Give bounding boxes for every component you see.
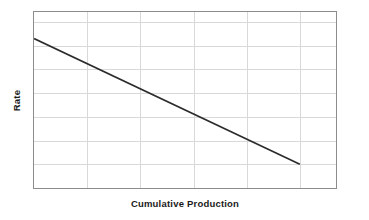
gridlines-vertical — [88, 12, 301, 188]
plot-svg — [34, 12, 336, 188]
plot-area — [33, 11, 337, 189]
y-axis-label: Rate — [0, 0, 33, 200]
data-series-line — [34, 39, 300, 165]
gridlines-horizontal — [34, 23, 336, 165]
x-axis-label: Cumulative Production — [33, 198, 337, 209]
chart-figure: Rate Cumulative Production — [0, 0, 369, 220]
y-axis-label-text: Rate — [11, 89, 22, 110]
